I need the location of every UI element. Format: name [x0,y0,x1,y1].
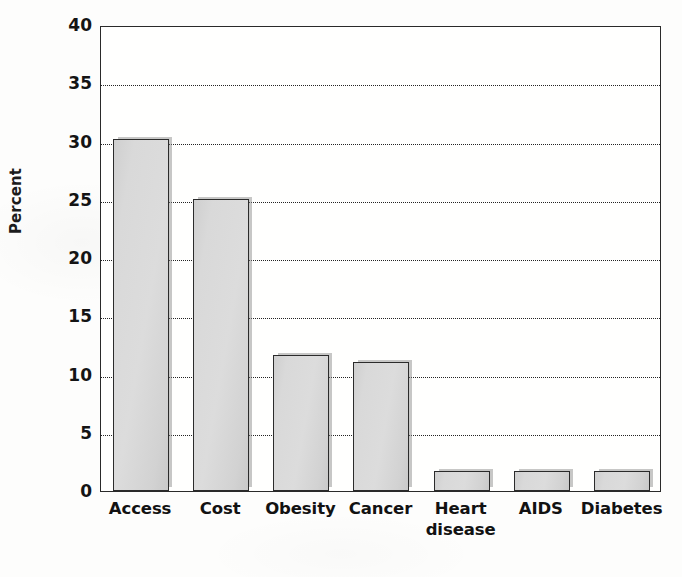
bar[interactable] [193,199,249,491]
y-axis-tick-label: 35 [46,75,92,92]
plot-area [100,26,661,492]
bar-slot [422,27,502,491]
bar[interactable] [113,139,169,491]
y-axis-tick-labels: 0510152025303540 [36,0,92,577]
x-axis-tick-label-line: Cost [200,499,241,518]
bar-chart-figure: Percent 0510152025303540 AccessCostObesi… [0,0,682,577]
x-axis-tick-label: Heartdisease [421,498,501,540]
bar-slot [181,27,261,491]
bar-slot [582,27,662,491]
x-axis-tick-label-line: Obesity [265,499,335,518]
y-axis-tick-label: 10 [46,367,92,384]
x-axis-tick-labels: AccessCostObesityCancerHeartdiseaseAIDSD… [100,498,661,568]
bar-slot [502,27,582,491]
bar-slot [341,27,421,491]
x-axis-tick-label-line: Access [109,499,172,518]
bar[interactable] [434,471,490,491]
bar[interactable] [353,362,409,491]
x-axis-tick-label: Diabetes [581,498,661,519]
bar-slot [261,27,341,491]
x-axis-tick-label: Obesity [260,498,340,519]
y-axis-tick-label: 25 [46,192,92,209]
y-axis-title: Percent [4,146,28,256]
y-axis-tick-label: 15 [46,308,92,325]
x-axis-tick-label-line: Heart [435,499,487,518]
y-axis-tick-label: 20 [46,250,92,267]
x-axis-tick-label: Cancer [340,498,420,519]
y-axis-tick-label: 5 [46,425,92,442]
x-axis-tick-label: AIDS [501,498,581,519]
plot-inner [101,27,660,491]
bar[interactable] [594,471,650,491]
x-axis-tick-label: Access [100,498,180,519]
y-axis-tick-label: 30 [46,134,92,151]
x-axis-tick-label-line: disease [421,519,501,540]
x-axis-tick-label-line: Diabetes [581,499,663,518]
bar-slot [101,27,181,491]
bar[interactable] [273,355,329,491]
x-axis-tick-label-line: Cancer [349,499,413,518]
x-axis-tick-label: Cost [180,498,260,519]
x-axis-tick-label-line: AIDS [519,499,563,518]
y-axis-tick-label: 40 [46,17,92,34]
bar[interactable] [514,471,570,491]
y-axis-tick-label: 0 [46,483,92,500]
